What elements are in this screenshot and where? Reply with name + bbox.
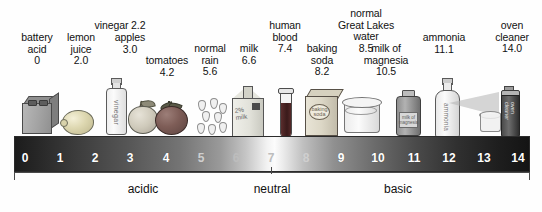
raindrop [210, 98, 218, 109]
label-line: 2.0 [56, 55, 106, 67]
label-line: 10.5 [356, 66, 416, 78]
label-line: 5.6 [186, 66, 234, 78]
label-normal-rain: normal rain 5.6 [186, 43, 234, 78]
test-tube-icon [274, 88, 298, 136]
ph-tick-9: 9 [338, 152, 345, 164]
lemon-body [62, 110, 94, 135]
zone-label-basic: basic [384, 182, 412, 196]
label-line: human [262, 20, 308, 32]
label-line: ammonia [416, 32, 472, 44]
bottle-label-text: milk of magnesia [399, 112, 418, 128]
battery-icon [18, 96, 60, 134]
scale-bracket [14, 172, 530, 180]
tomato-icon [155, 97, 189, 136]
battery-body [22, 103, 52, 134]
tube-glass [280, 92, 292, 138]
label-line: 6.6 [230, 55, 268, 67]
zone-label-neutral: neutral [254, 182, 291, 196]
label-ammonia: ammonia 11.1 [416, 32, 472, 55]
raindrop [202, 111, 210, 122]
lemon-icon [62, 100, 96, 136]
ph-tick-2: 2 [92, 152, 99, 164]
ph-tick-12: 12 [442, 152, 455, 164]
ph-tick-5: 5 [198, 152, 205, 164]
medicine-bottle-icon: milk of magnesia [393, 90, 425, 136]
ph-tick-13: 13 [477, 152, 490, 164]
ph-tick-1: 1 [57, 152, 64, 164]
box-label-text: baking soda [309, 104, 330, 120]
battery-terminal [39, 100, 48, 106]
neutral-tick-mark [271, 167, 272, 174]
label-line: vinegar 2.2 [82, 20, 158, 32]
ph-tick-14: 14 [511, 152, 524, 164]
carton-dark-panel [252, 103, 260, 110]
tube-lip [278, 88, 294, 94]
label-line: 14.0 [486, 43, 538, 55]
raindrop [198, 100, 206, 111]
ph-tick-8: 8 [303, 152, 310, 164]
ph-tick-3: 3 [127, 152, 134, 164]
ph-tick-10: 10 [371, 152, 384, 164]
label-oven-cleaner: oven cleaner 14.0 [486, 20, 538, 55]
label-apples: apples 3.0 [106, 32, 154, 55]
milk-carton-icon: 2% milk [230, 86, 266, 136]
label-line: milk of [356, 43, 416, 55]
label-line: oven [486, 20, 538, 32]
tomato-body [155, 106, 188, 135]
label-line: normal [186, 43, 234, 55]
ph-tick-6: 6 [233, 152, 240, 164]
apple-body [128, 106, 158, 134]
blood-fill [281, 103, 291, 137]
cup-body [480, 114, 501, 132]
spray-can-icon: oven cleaner [497, 86, 527, 136]
label-vinegar: vinegar 2.2 [82, 20, 158, 32]
raindrop [219, 122, 227, 133]
ph-tick-0: 0 [22, 152, 29, 164]
raindrop [197, 123, 205, 134]
raindrops-icon [196, 98, 228, 136]
can-label-text: oven cleaner [504, 102, 515, 126]
ph-tick-11: 11 [408, 152, 421, 164]
beaker-rim [342, 97, 382, 108]
label-line: 8.2 [300, 66, 344, 78]
label-line: 11.1 [416, 44, 472, 56]
ph-scale-diagram: battery acid 0 lemon juice 2.0 vinegar 2… [0, 0, 542, 212]
ph-tick-4: 4 [163, 152, 170, 164]
baking-soda-box-icon: baking soda [303, 88, 341, 136]
battery-terminal [28, 100, 37, 106]
label-milk-of-magnesia: milk of magnesia 10.5 [356, 43, 416, 78]
carton-label-text: 2% milk [234, 105, 252, 121]
ph-tick-7: 7 [268, 152, 275, 164]
label-line: apples [106, 32, 154, 44]
raindrop [208, 124, 216, 135]
zone-label-acidic: acidic [128, 182, 159, 196]
label-line: normal [328, 8, 404, 20]
beaker-icon [342, 96, 384, 136]
label-lemon-juice: lemon juice 2.0 [56, 32, 106, 67]
bottle-label-text: vinegar [111, 100, 121, 126]
label-line: lemon [56, 32, 106, 44]
